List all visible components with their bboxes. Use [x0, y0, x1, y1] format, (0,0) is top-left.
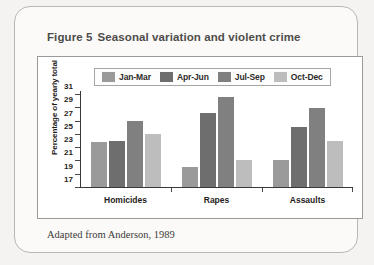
bar-homicides-apr-jun[interactable] — [109, 141, 125, 187]
plot-area: 1719212325272931HomicidesRapesAssaults — [80, 95, 353, 188]
bar-assaults-jan-mar[interactable] — [273, 160, 289, 187]
figure-source-caption: Adapted from Anderson, 1989 — [47, 229, 175, 240]
y-axis-tick-label: 19 — [64, 161, 73, 170]
legend-item-oct-dec[interactable]: Oct-Dec — [274, 72, 323, 82]
legend-item-jul-sep[interactable]: Jul-Sep — [218, 72, 265, 82]
y-axis-tick-label: 23 — [64, 135, 73, 144]
y-axis-title: Percentage of yearly total — [50, 48, 59, 168]
bar-rapes-oct-dec[interactable] — [236, 160, 252, 187]
bar-group-assaults — [262, 95, 353, 187]
legend-swatch-icon — [218, 72, 231, 82]
bar-assaults-oct-dec[interactable] — [327, 141, 343, 187]
y-axis-tick-label: 21 — [64, 148, 73, 157]
x-axis-line — [80, 187, 353, 188]
legend-swatch-icon — [102, 72, 115, 82]
bar-rapes-jan-mar[interactable] — [182, 167, 198, 187]
figure-title: Figure 5Seasonal variation and violent c… — [47, 31, 301, 43]
y-axis-tick-label: 17 — [64, 175, 73, 184]
bar-assaults-apr-jun[interactable] — [291, 127, 307, 187]
x-axis-label-rapes: Rapes — [204, 195, 230, 205]
y-axis-tick — [75, 187, 80, 188]
legend-label: Jul-Sep — [235, 72, 265, 82]
chart-legend: Jan-MarApr-JunJul-SepOct-Dec — [94, 68, 331, 86]
bar-rapes-apr-jun[interactable] — [200, 113, 216, 187]
legend-swatch-icon — [274, 72, 287, 82]
bar-homicides-oct-dec[interactable] — [145, 134, 161, 187]
x-axis-label-assaults: Assaults — [290, 195, 325, 205]
bar-homicides-jul-sep[interactable] — [127, 121, 143, 187]
legend-label: Apr-Jun — [177, 72, 209, 82]
bar-rapes-jul-sep[interactable] — [218, 97, 234, 187]
legend-item-jan-mar[interactable]: Jan-Mar — [102, 72, 151, 82]
y-axis-tick-label: 25 — [64, 121, 73, 130]
bar-group-homicides — [80, 95, 171, 187]
legend-label: Oct-Dec — [291, 72, 323, 82]
bar-assaults-jul-sep[interactable] — [309, 108, 325, 188]
legend-label: Jan-Mar — [119, 72, 151, 82]
legend-swatch-icon — [160, 72, 173, 82]
y-axis-tick-label: 29 — [64, 95, 73, 104]
y-axis-tick-label: 27 — [64, 108, 73, 117]
figure-number: Figure 5 — [47, 31, 93, 43]
x-axis-separator-tick — [262, 188, 263, 192]
x-axis-end-tick — [352, 188, 353, 192]
y-axis-tick-label: 31 — [64, 82, 73, 91]
bar-homicides-jan-mar[interactable] — [91, 142, 107, 187]
x-axis-label-homicides: Homicides — [104, 195, 147, 205]
bar-group-rapes — [171, 95, 262, 187]
figure-title-text: Seasonal variation and violent crime — [98, 31, 301, 43]
legend-item-apr-jun[interactable]: Apr-Jun — [160, 72, 209, 82]
figure-card: Figure 5Seasonal variation and violent c… — [14, 6, 358, 253]
x-axis-separator-tick — [171, 188, 172, 192]
chart-frame: Jan-MarApr-JunJul-SepOct-Dec Percentage … — [37, 56, 363, 219]
